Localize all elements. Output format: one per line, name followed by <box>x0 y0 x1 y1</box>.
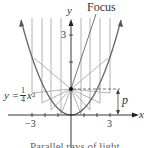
y-axis-label: y <box>67 5 72 16</box>
x-tick-neg3: −3 <box>25 119 36 129</box>
parabola-diagram <box>0 0 146 148</box>
focus-label: Focus <box>87 1 116 13</box>
caption: Parallel rays of light <box>30 141 120 148</box>
equation-label: y = 1 4 x 2 <box>4 87 35 104</box>
y-tick-3: 3 <box>61 30 66 40</box>
x-axis-label: x <box>139 109 144 120</box>
focus-pointer <box>71 14 96 89</box>
x-tick-3: 3 <box>107 119 112 129</box>
p-label: p <box>122 94 128 106</box>
focus-point <box>69 87 73 91</box>
